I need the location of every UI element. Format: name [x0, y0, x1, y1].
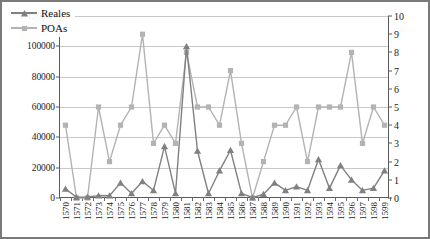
- x-axis-tick-label: 1584: [215, 202, 225, 220]
- right-axis-tick-label: 6: [394, 83, 399, 94]
- right-axis-tick-label: 3: [394, 138, 399, 149]
- triangle-marker-icon: [11, 7, 37, 18]
- square-marker-icon: [11, 22, 37, 33]
- right-axis-tick-label: 9: [394, 29, 399, 40]
- legend-label: POAs: [41, 21, 67, 35]
- x-axis-tick-label: 1591: [292, 202, 302, 220]
- left-axis-tick-label: 80000: [32, 72, 55, 82]
- right-axis-tick-label: 1: [394, 174, 399, 185]
- x-axis-tick-label: 1592: [303, 202, 313, 220]
- right-axis-tick-label: 8: [394, 47, 399, 58]
- series-plot: [60, 16, 390, 198]
- x-axis-tick-label: 1577: [138, 202, 148, 220]
- series-reales: [62, 43, 388, 201]
- chart-frame: 020000400006000080000100000120000 012345…: [0, 0, 430, 239]
- left-axis-tick-label: 0: [50, 193, 55, 203]
- x-axis-tick-label: 1586: [237, 202, 247, 220]
- legend-label: Reales: [41, 6, 70, 20]
- plot-area: 020000400006000080000100000120000 012345…: [59, 16, 389, 198]
- x-axis-tick-label: 1594: [325, 202, 335, 220]
- x-axis-tick-label: 1587: [248, 202, 258, 220]
- x-axis-tick-label: 1576: [127, 202, 137, 220]
- x-axis-tick-label: 1597: [358, 202, 368, 220]
- x-axis-tick-label: 1598: [369, 202, 379, 220]
- x-axis-tick-label: 1595: [336, 202, 346, 220]
- x-axis-tick-label: 1573: [94, 202, 104, 220]
- chart-legend: RealesPOAs: [8, 4, 75, 37]
- left-axis-tick-label: 20000: [32, 163, 55, 173]
- x-axis-tick-label: 1583: [204, 202, 214, 220]
- x-axis-tick-label: 1593: [314, 202, 324, 220]
- right-axis-tick-label: 2: [394, 156, 399, 167]
- right-axis-tick-label: 5: [394, 102, 399, 113]
- x-axis-tick: [390, 197, 391, 201]
- x-axis-tick-label: 1570: [61, 202, 71, 220]
- left-axis-tick-label: 60000: [32, 102, 55, 112]
- legend-item-poas[interactable]: POAs: [11, 20, 70, 35]
- x-axis-tick-label: 1588: [259, 202, 269, 220]
- x-axis-tick-label: 1596: [347, 202, 357, 220]
- x-axis-tick-label: 1578: [149, 202, 159, 220]
- series-poas: [63, 32, 387, 201]
- x-axis-tick-label: 1581: [182, 202, 192, 220]
- right-axis-tick-label: 4: [394, 120, 399, 131]
- right-axis-tick-label: 10: [394, 11, 404, 22]
- legend-item-reales[interactable]: Reales: [11, 5, 70, 20]
- right-axis-tick-label: 0: [394, 193, 399, 204]
- x-axis-tick-label: 1575: [116, 202, 126, 220]
- x-axis-tick-label: 1579: [160, 202, 170, 220]
- x-axis-tick-label: 1572: [83, 202, 93, 220]
- x-axis-tick-label: 1571: [72, 202, 82, 220]
- x-axis-tick-label: 1585: [226, 202, 236, 220]
- right-axis-tick-label: 7: [394, 65, 399, 76]
- x-axis-tick-label: 1599: [380, 202, 390, 220]
- x-axis-tick-label: 1582: [193, 202, 203, 220]
- left-axis-tick-label: 100000: [27, 41, 55, 51]
- left-axis-tick-label: 40000: [32, 132, 55, 142]
- chart-container: 020000400006000080000100000120000 012345…: [2, 2, 428, 237]
- x-axis-tick-label: 1574: [105, 202, 115, 220]
- x-axis-tick-label: 1580: [171, 202, 181, 220]
- x-axis-tick-label: 1590: [281, 202, 291, 220]
- x-axis-tick-label: 1589: [270, 202, 280, 220]
